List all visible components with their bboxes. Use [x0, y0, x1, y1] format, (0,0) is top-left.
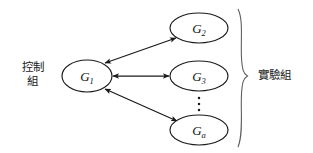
edge-g1-g2 [105, 38, 176, 63]
node-ga[interactable]: Ga [170, 115, 228, 145]
node-g1[interactable]: G1 [62, 60, 112, 92]
node-g2-subscript: 2 [202, 28, 207, 38]
grouping-brace [238, 9, 248, 147]
node-g1-subscript: 1 [90, 76, 94, 86]
experimental-group-label: 實驗組 [258, 68, 310, 82]
edge-group [105, 38, 177, 121]
edge-g1-ga [105, 89, 177, 121]
vertical-ellipsis-icon [198, 97, 201, 112]
node-ga-subscript: a [202, 130, 206, 140]
node-g3-subscript: 3 [201, 76, 206, 86]
control-group-label: 控制 組 [13, 60, 53, 88]
node-g2[interactable]: G2 [170, 13, 228, 43]
node-g3[interactable]: G3 [170, 61, 228, 91]
diagram-canvas: G1 G2 G3 Ga 控制 組 實驗組 [0, 0, 313, 153]
